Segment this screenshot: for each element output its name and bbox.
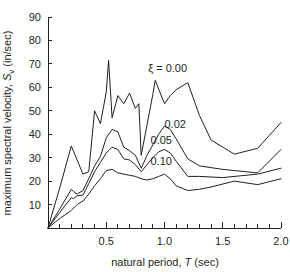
y-tick-label: 70 — [29, 58, 41, 70]
x-axis-title: natural period, T (sec) — [111, 256, 219, 268]
y-axis-title: maximum spectral velocity, Sv (in/sec) — [1, 31, 16, 216]
x-tick-label: 0.5 — [99, 235, 114, 247]
y-tick-labels: 102030405060708090 — [29, 11, 41, 211]
y-tick-label: 80 — [29, 34, 41, 46]
spectral-velocity-figure: 102030405060708090 0.51.01.52.0 ξ = 0.00… — [0, 0, 290, 272]
chart-canvas: 102030405060708090 0.51.01.52.0 ξ = 0.00… — [0, 0, 290, 272]
series-line-0-10 — [48, 169, 281, 228]
x-tick-label: 1.5 — [215, 235, 230, 247]
x-tick-label: 1.0 — [157, 235, 172, 247]
y-tick-label: 90 — [29, 11, 41, 23]
y-tick-label: 50 — [29, 105, 41, 117]
x-tick-labels: 0.51.01.52.0 — [99, 235, 289, 247]
curve-label-0-00: ξ = 0.00 — [148, 62, 187, 74]
y-tick-label: 40 — [29, 128, 41, 140]
curve-label-0-05: 0.05 — [151, 134, 172, 146]
y-tick-label: 20 — [29, 175, 41, 187]
x-tick-label: 2.0 — [273, 235, 288, 247]
y-tick-label: 60 — [29, 81, 41, 93]
y-tick-label: 30 — [29, 152, 41, 164]
curve-label-0-02: 0.02 — [165, 118, 186, 130]
curve-label-0-10: 0.10 — [151, 155, 172, 167]
y-tick-label: 10 — [29, 199, 41, 211]
